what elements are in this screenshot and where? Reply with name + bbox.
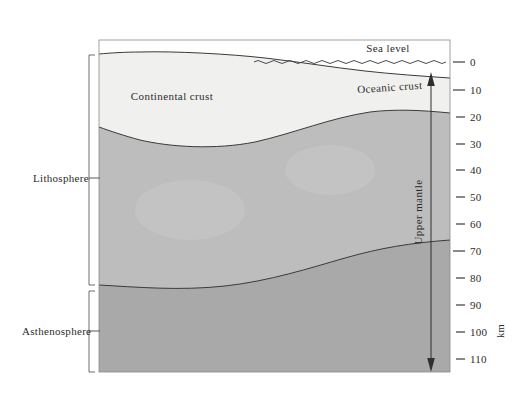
depth-tick-label: 60 [470, 218, 482, 230]
depth-tick-label: 10 [470, 84, 482, 96]
depth-tick-label: 20 [470, 111, 482, 123]
lithosphere-label: Lithosphere [33, 172, 89, 184]
geologic-cross-section-figure: 0 10 20 30 40 50 [0, 0, 521, 393]
continental-crust-label: Continental crust [131, 90, 213, 102]
depth-tick-label: 30 [470, 138, 482, 150]
paper-texture-smudge [135, 180, 245, 240]
upper-mantle-label: Upper mantle [412, 180, 424, 245]
paper-texture-smudge [285, 145, 375, 195]
depth-tick-label: 0 [470, 56, 476, 68]
depth-tick-label: 40 [470, 164, 482, 176]
depth-tick-label: 110 [470, 353, 487, 365]
depth-tick-label: 90 [470, 299, 482, 311]
depth-tick-label: 70 [470, 245, 482, 257]
depth-tick-label: 80 [470, 272, 482, 284]
cross-section-svg: 0 10 20 30 40 50 [0, 0, 521, 393]
depth-axis-unit-label: km [495, 324, 506, 338]
depth-tick-label: 100 [470, 326, 487, 338]
asthenosphere-label: Asthenosphere [22, 325, 91, 337]
depth-tick-label: 50 [470, 191, 482, 203]
sea-level-label: Sea level [366, 42, 410, 54]
